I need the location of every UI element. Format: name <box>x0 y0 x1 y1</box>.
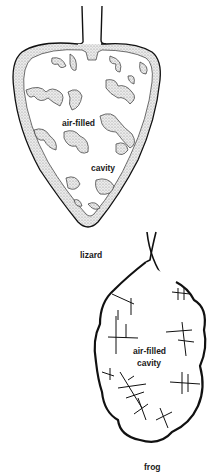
lizard-cavity-label-line1: air-filled <box>62 118 95 128</box>
frog-lung <box>95 232 206 442</box>
lizard-caption: lizard <box>80 250 102 260</box>
lizard-cavity-label-line2: cavity <box>91 163 115 173</box>
frog-cavity-label-line2: cavity <box>137 358 161 368</box>
lung-comparison-diagram <box>0 0 221 472</box>
lizard-lung <box>13 6 160 227</box>
frog-cavity-label-line1: air-filled <box>133 346 166 356</box>
frog-caption: frog <box>144 462 161 472</box>
